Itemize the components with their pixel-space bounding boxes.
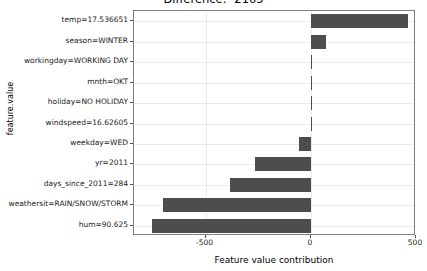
bar	[311, 96, 312, 110]
y-tick-mark	[130, 204, 133, 205]
bar	[255, 157, 311, 171]
bar	[163, 198, 310, 212]
x-tick-mark	[310, 235, 311, 238]
chart-figure: Difference: -2105 feature.value temp=17.…	[0, 0, 427, 271]
gridline-horizontal	[134, 124, 414, 125]
y-tick-mark	[130, 82, 133, 83]
y-tick-label: days_since_2011=284	[44, 179, 128, 188]
y-tick-mark	[130, 184, 133, 185]
x-tick-label: 0	[307, 238, 312, 247]
gridline-horizontal	[134, 62, 414, 63]
bar	[152, 219, 311, 233]
bar	[299, 137, 311, 151]
gridline-horizontal	[134, 83, 414, 84]
x-tick-mark	[415, 235, 416, 238]
y-tick-label: hum=90.625	[79, 220, 128, 229]
bar	[230, 178, 311, 192]
gridline-horizontal	[134, 103, 414, 104]
y-tick-mark	[130, 143, 133, 144]
bar	[311, 14, 408, 28]
plot-panel	[133, 10, 415, 235]
plot-area	[134, 11, 414, 234]
y-tick-label: season=WINTER	[66, 36, 128, 45]
y-tick-label: temp=17.536651	[62, 15, 128, 24]
y-tick-label: weathersit=RAIN/SNOW/STORM	[9, 199, 128, 208]
y-tick-mark	[130, 225, 133, 226]
y-tick-mark	[130, 102, 133, 103]
y-tick-label: weekday=WED	[70, 138, 128, 147]
y-tick-label: holiday=NO HOLIDAY	[48, 97, 128, 106]
y-tick-label: windspeed=16.62605	[46, 118, 128, 127]
y-tick-label: mnth=OKT	[87, 77, 128, 86]
y-tick-mark	[130, 41, 133, 42]
x-axis-title: Feature value contribution	[133, 255, 415, 265]
x-tick-mark	[205, 235, 206, 238]
bar	[311, 55, 312, 69]
bar	[311, 117, 312, 131]
gridline-horizontal	[134, 144, 414, 145]
y-tick-mark	[130, 123, 133, 124]
bar	[311, 76, 312, 90]
chart-title: Difference: -2105	[0, 0, 427, 6]
bar	[311, 35, 326, 49]
x-tick-label: 500	[408, 238, 422, 247]
y-tick-label: yr=2011	[95, 158, 128, 167]
y-tick-label: workingday=WORKING DAY	[24, 56, 128, 65]
gridline-horizontal	[134, 42, 414, 43]
y-tick-mark	[130, 20, 133, 21]
y-tick-mark	[130, 61, 133, 62]
x-tick-label: -500	[196, 238, 213, 247]
y-axis-title: feature.value	[6, 69, 15, 149]
y-tick-mark	[130, 163, 133, 164]
